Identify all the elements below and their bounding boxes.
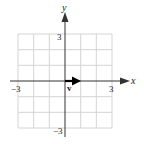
y-axis-arrow-icon	[62, 12, 69, 22]
y-axis-label: y	[61, 2, 67, 13]
x-axis-arrow-icon	[120, 78, 130, 85]
tick-label-y-neg: −3	[53, 126, 63, 136]
x-axis-label: x	[130, 75, 136, 86]
coordinate-plane-figure: x y −3 3 3 −3 v	[0, 0, 144, 144]
tick-label-x-neg: −3	[11, 84, 21, 94]
vector-arrowhead-icon	[72, 77, 81, 86]
vector-label: v	[67, 83, 72, 93]
tick-label-y-pos: 3	[57, 32, 62, 42]
tick-label-x-pos: 3	[109, 84, 114, 94]
y-axis	[62, 12, 69, 137]
